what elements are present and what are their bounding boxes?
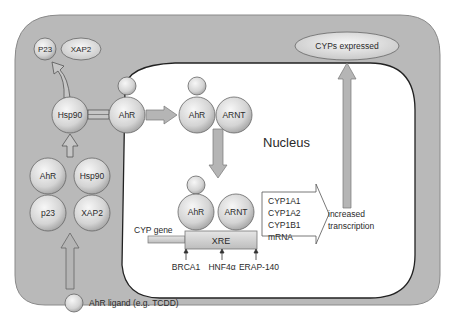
outcome-label: increased — [328, 209, 365, 219]
svg-text:AhR: AhR — [40, 171, 57, 181]
svg-text:mRNA: mRNA — [268, 232, 293, 242]
coregulator-erap140: ERAP-140 — [239, 262, 279, 272]
svg-text:XAP2: XAP2 — [71, 45, 92, 54]
svg-text:ARNT: ARNT — [224, 207, 247, 217]
svg-text:ARNT: ARNT — [222, 110, 245, 120]
svg-text:AhR: AhR — [119, 110, 136, 120]
svg-text:Hsp90: Hsp90 — [58, 110, 83, 120]
svg-text:p23: p23 — [41, 208, 55, 218]
released-xap2: XAP2 — [61, 38, 101, 60]
nucleus-label: Nucleus — [263, 135, 310, 150]
svg-text:CYPs expressed: CYPs expressed — [315, 41, 379, 51]
svg-text:XAP2: XAP2 — [81, 208, 103, 218]
hsp90-chaperone: Hsp90 — [52, 97, 88, 133]
cyp-gene-bar — [148, 236, 185, 243]
ahr-pathway-diagram: Nucleus P23 XAP2 Hsp90 AhR AhR ARNT Ah — [0, 0, 451, 328]
released-p23: P23 — [34, 38, 56, 60]
svg-text:CYP1B1: CYP1B1 — [268, 220, 301, 230]
svg-text:P23: P23 — [38, 45, 53, 54]
cyps-expressed: CYPs expressed — [295, 32, 399, 60]
coregulator-hnf4a: HNF4α — [208, 262, 235, 272]
svg-text:XRE: XRE — [212, 236, 231, 246]
svg-text:CYP1A2: CYP1A2 — [268, 208, 301, 218]
svg-text:AhR: AhR — [188, 207, 205, 217]
svg-text:transcription: transcription — [328, 221, 375, 231]
svg-text:Hsp90: Hsp90 — [80, 171, 105, 181]
svg-text:AhR ligand (e.g. TCDD): AhR ligand (e.g. TCDD) — [89, 298, 179, 308]
svg-text:AhR: AhR — [189, 110, 206, 120]
cyp-gene-label: CYP gene — [134, 225, 173, 235]
svg-text:CYP1A1: CYP1A1 — [268, 196, 301, 206]
coregulator-brca1: BRCA1 — [172, 262, 201, 272]
